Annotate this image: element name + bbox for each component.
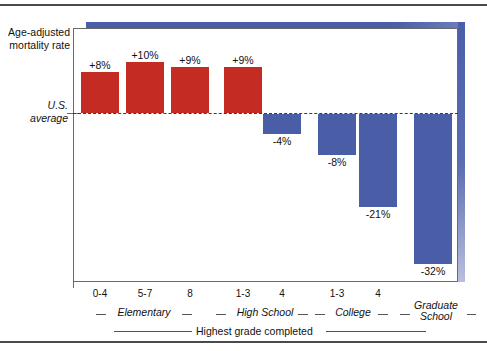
cat-label-elementary-5-7: 5-7 [126, 288, 164, 299]
bar-elementary-0-4 [81, 72, 119, 113]
bar-college-1-3 [318, 114, 356, 155]
bar-value-highschool-4: -4% [263, 135, 301, 147]
page-rule-bottom [0, 341, 487, 343]
cat-label-college-1-3: 1-3 [318, 288, 356, 299]
chart-figure: Age-adjusted mortality rate U.S. average… [0, 0, 487, 351]
group-label-graduate: Graduate School [408, 300, 464, 322]
baseline-label-line1: U.S. [4, 99, 68, 112]
y-axis-title-line2: mortality rate [4, 39, 70, 52]
bar-value-elementary-8: +9% [171, 54, 209, 66]
group-label-elementary: Elementary [108, 307, 180, 318]
cat-label-highschool-1-3: 1-3 [224, 288, 262, 299]
group-label-graduate-line2: School [420, 310, 452, 322]
bar-value-college-4: -21% [355, 208, 401, 220]
bar-highschool-1-3 [224, 67, 262, 113]
cat-label-college-4: 4 [359, 288, 397, 299]
bar-value-graduate-school: -32% [410, 265, 456, 277]
cat-label-elementary-8: 8 [171, 288, 209, 299]
x-axis-caption: Highest grade completed [196, 325, 313, 337]
group-rule-elementary-left [96, 314, 106, 315]
group-rule-graduate-right [467, 314, 476, 315]
group-rule-highschool-right [298, 314, 308, 315]
bar-graduate-school [414, 114, 452, 264]
y-axis-title-line1: Age-adjusted [4, 26, 70, 39]
baseline-label: U.S. average [4, 99, 68, 125]
bar-value-college-1-3: -8% [318, 156, 356, 168]
bar-college-4 [359, 114, 397, 207]
bar-value-elementary-0-4: +8% [81, 59, 119, 71]
x-axis-origin-tick [73, 276, 74, 288]
baseline-label-line2: average [4, 112, 68, 125]
bar-highschool-4 [263, 114, 301, 134]
group-rule-elementary-right [182, 314, 192, 315]
bar-elementary-5-7 [126, 62, 164, 113]
x-caption-rule-right [326, 331, 426, 332]
group-rule-college-left [315, 314, 325, 315]
decorative-band-right [458, 22, 465, 282]
cat-label-elementary-0-4: 0-4 [81, 288, 119, 299]
page-rule-top [0, 4, 487, 6]
y-axis-line [73, 28, 74, 285]
bar-elementary-8 [171, 67, 209, 113]
x-caption-rule-left [114, 331, 192, 332]
group-label-college: College [326, 307, 380, 318]
bar-value-elementary-5-7: +10% [124, 49, 166, 61]
group-label-highschool: High School [228, 307, 302, 318]
cat-label-highschool-4: 4 [263, 288, 301, 299]
group-rule-college-right [378, 314, 388, 315]
bar-value-highschool-1-3: +9% [224, 54, 262, 66]
y-axis-title: Age-adjusted mortality rate [4, 26, 70, 52]
group-rule-highschool-left [216, 314, 226, 315]
